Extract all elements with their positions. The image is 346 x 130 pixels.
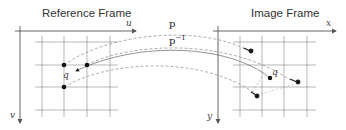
- reference-q-label: q: [63, 70, 69, 80]
- reference-grid: [35, 36, 118, 117]
- inverse-map-exponent: −1: [175, 34, 185, 42]
- v-axis-label: v: [10, 110, 15, 120]
- u-axis-label: u: [126, 18, 132, 28]
- forward-map-label: p: [169, 18, 175, 29]
- y-axis-label: y: [207, 111, 212, 121]
- inverse-map-label: p−1: [169, 34, 186, 46]
- x-axis-label: x: [326, 18, 331, 28]
- reference-axes: [15, 26, 136, 123]
- image-q-label: q: [272, 67, 278, 77]
